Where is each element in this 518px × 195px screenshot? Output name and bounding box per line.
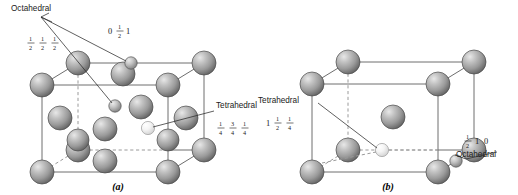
svg-text:4: 4 bbox=[243, 129, 246, 136]
svg-text:2: 2 bbox=[29, 44, 32, 51]
atom-face-center bbox=[129, 95, 153, 119]
svg-text:4: 4 bbox=[219, 129, 222, 136]
atom-corner bbox=[336, 50, 360, 74]
svg-text:2: 2 bbox=[276, 124, 279, 131]
svg-text:1: 1 bbox=[475, 137, 479, 146]
atom-body-center bbox=[381, 105, 405, 129]
tetrahedral-site-b bbox=[375, 143, 388, 156]
svg-text:0: 0 bbox=[484, 137, 488, 146]
svg-text:1: 1 bbox=[29, 35, 32, 42]
svg-text:3: 3 bbox=[231, 120, 234, 127]
atom-corner bbox=[300, 72, 324, 96]
svg-text:2: 2 bbox=[53, 44, 56, 51]
tetrahedral-label-b: Tetrahedral bbox=[258, 96, 299, 105]
atom-corner bbox=[336, 138, 360, 162]
svg-text:1: 1 bbox=[288, 115, 291, 122]
svg-text:1: 1 bbox=[126, 27, 130, 36]
svg-text:4: 4 bbox=[288, 124, 291, 131]
tetrahedral-site-a bbox=[141, 121, 154, 134]
octahedral-site-edge-a bbox=[125, 57, 137, 69]
crystal-structure-figure: Octahedral Tetrahedral 0 1 2 1 1 2 1 2 1… bbox=[0, 0, 518, 195]
svg-text:1: 1 bbox=[219, 120, 222, 127]
svg-text:1: 1 bbox=[118, 23, 121, 30]
svg-text:2: 2 bbox=[118, 32, 121, 39]
atom-face-center bbox=[157, 129, 179, 151]
svg-text:4: 4 bbox=[231, 129, 234, 136]
atom-corner bbox=[66, 51, 90, 75]
panel-b-caption: (b) bbox=[382, 181, 394, 193]
svg-text:2: 2 bbox=[466, 142, 469, 149]
atom-face-center bbox=[93, 117, 117, 141]
atom-face-center bbox=[67, 129, 89, 151]
panel-a-caption: (a) bbox=[112, 181, 124, 193]
svg-text:1: 1 bbox=[466, 133, 469, 140]
atom-corner bbox=[30, 160, 54, 184]
atom-corner bbox=[426, 160, 450, 184]
atom-face-center bbox=[93, 149, 117, 173]
panel-a: Octahedral Tetrahedral 0 1 2 1 1 2 1 2 1… bbox=[11, 4, 257, 193]
svg-text:1: 1 bbox=[276, 115, 279, 122]
atom-corner bbox=[156, 73, 180, 97]
atom-corner bbox=[30, 73, 54, 97]
panel-b: Tetrahedral Octahedral 1 1 2 1 4 1 2 1 0… bbox=[258, 50, 497, 193]
svg-text:1: 1 bbox=[41, 35, 44, 42]
octahedral-label-a: Octahedral bbox=[11, 4, 51, 13]
coord-octahedral-edge-a: 0 1 2 1 bbox=[108, 23, 130, 39]
octahedral-label-b: Octahedral bbox=[456, 150, 496, 159]
atom-corner bbox=[300, 160, 324, 184]
coord-octahedral-center-a: 1 2 1 2 1 2 bbox=[28, 35, 59, 51]
atom-corner bbox=[192, 51, 216, 75]
svg-text:0: 0 bbox=[108, 27, 112, 36]
svg-text:1: 1 bbox=[266, 119, 270, 128]
atom-corner bbox=[426, 72, 450, 96]
atom-face-center bbox=[48, 106, 72, 130]
atom-corner bbox=[192, 138, 216, 162]
atom-corner bbox=[462, 50, 486, 74]
figure-canvas: Octahedral Tetrahedral 0 1 2 1 1 2 1 2 1… bbox=[0, 0, 518, 195]
svg-text:1: 1 bbox=[53, 35, 56, 42]
svg-text:1: 1 bbox=[243, 120, 246, 127]
cube-b-hidden-edges bbox=[312, 62, 438, 172]
coord-tetrahedral-b: 1 1 2 1 4 bbox=[266, 115, 294, 131]
coord-tetrahedral-a: 1 4 3 4 1 4 bbox=[218, 120, 249, 136]
atom-corner bbox=[156, 160, 180, 184]
svg-text:2: 2 bbox=[41, 44, 44, 51]
tetrahedral-label-a: Tetrahedral bbox=[216, 101, 257, 110]
